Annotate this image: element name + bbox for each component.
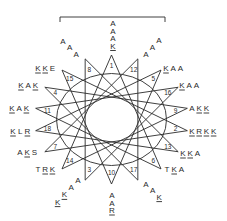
residue-label-pos-4: KAK: [18, 81, 39, 90]
residue-label-pos-11: KAK: [9, 104, 30, 113]
residue-label-pos-17: AAK: [143, 180, 162, 202]
residue-label-pos-9: AKK: [189, 104, 209, 113]
residue-letter: K: [180, 149, 186, 158]
residue-letter: R: [196, 127, 202, 136]
residue-letter: A: [187, 81, 193, 90]
residue-letter: A: [26, 81, 32, 90]
residue-letter: K: [163, 64, 169, 73]
position-number: 12: [130, 66, 138, 73]
residue-label-pos-10: AAR: [109, 191, 115, 215]
residue-letter: A: [194, 81, 200, 90]
residue-letter: K: [197, 104, 203, 113]
residue-letter: K: [25, 148, 31, 157]
residue-label-pos-5: KAA: [163, 64, 184, 73]
position-number: 14: [66, 157, 74, 164]
residue-labels: AAAKAAAKAAKAAAKKKRKKKKATKAAAKAARAAKKTRKA…: [9, 19, 217, 215]
residue-letter: A: [178, 64, 184, 73]
position-number: 8: [87, 66, 91, 73]
residue-label-pos-3: AAKK: [55, 176, 82, 207]
residue-letter: A: [171, 64, 177, 73]
residue-letter: A: [179, 165, 185, 174]
residue-letter: A: [150, 186, 156, 195]
residue-letter: K: [189, 127, 195, 136]
residue-letter: A: [60, 37, 66, 46]
position-number: 18: [44, 125, 52, 132]
residue-letter: K: [55, 198, 61, 207]
helical-wheel-diagram: 112516921361710314718114158 AAAKAAAKAAKA…: [0, 0, 227, 221]
residue-letter: K: [24, 104, 30, 113]
position-number: 9: [174, 107, 178, 114]
residue-letter: S: [32, 148, 37, 157]
residue-letter: A: [74, 50, 80, 59]
residue-letter: T: [36, 165, 41, 174]
residue-label-pos-2: KRKK: [189, 127, 217, 136]
residue-letter: R: [25, 127, 31, 136]
residue-letter: R: [42, 165, 48, 174]
residue-label-pos-13: KKA: [180, 149, 201, 158]
residue-letter: K: [172, 165, 178, 174]
residue-letter: K: [62, 190, 68, 199]
residue-letter: A: [17, 148, 23, 157]
position-number: 15: [66, 75, 74, 82]
position-number: 1: [110, 62, 114, 69]
position-number: 4: [53, 89, 57, 96]
residue-letter: A: [143, 50, 149, 59]
residue-label-pos-18: KLR: [10, 127, 30, 136]
position-numbers: 112516921361710314718114158: [44, 62, 178, 176]
residue-letter: K: [204, 127, 210, 136]
residue-letter: K: [179, 81, 185, 90]
position-number: 3: [87, 166, 91, 173]
residue-letter: E: [50, 64, 55, 73]
residue-letter: K: [211, 127, 217, 136]
position-number: 10: [108, 169, 116, 176]
residue-label-pos-12: AAA: [143, 36, 162, 59]
residue-letter: A: [67, 43, 73, 52]
residue-letter: A: [189, 104, 195, 113]
position-number: 2: [174, 125, 178, 132]
residue-label-pos-6: TKA: [165, 165, 185, 174]
residue-letter: T: [165, 165, 170, 174]
inner-ellipse: [57, 74, 167, 166]
residue-label-pos-14: TRK: [36, 165, 56, 174]
residue-letter: K: [18, 81, 24, 90]
residue-label-pos-15: KKE: [35, 64, 55, 73]
residue-letter: K: [157, 193, 163, 202]
residue-letter: K: [9, 104, 15, 113]
residue-letter: L: [18, 127, 23, 136]
residue-letter: A: [75, 176, 81, 185]
residue-letter: A: [156, 36, 162, 45]
residue-letter: K: [33, 81, 39, 90]
residue-letter: K: [10, 127, 16, 136]
residue-letter: A: [69, 183, 75, 192]
residue-letter: A: [143, 180, 149, 189]
residue-letter: A: [195, 149, 201, 158]
residue-label-pos-16: KAA: [179, 81, 200, 90]
position-number: 5: [151, 75, 155, 82]
residue-label-pos-1: AAAK: [110, 19, 116, 51]
residue-letter: A: [150, 43, 156, 52]
position-number: 6: [151, 157, 155, 164]
residue-label-pos-7: AKS: [17, 148, 37, 157]
residue-letter: K: [43, 64, 49, 73]
residue-letter: K: [204, 104, 210, 113]
residue-letter: K: [110, 42, 116, 51]
position-number: 17: [130, 166, 138, 173]
position-number: 11: [44, 107, 51, 114]
residue-label-pos-8: AAA: [60, 37, 79, 59]
residue-letter: K: [188, 149, 194, 158]
residue-letter: R: [109, 206, 115, 215]
position-number: 16: [164, 89, 172, 96]
position-number: 7: [53, 143, 57, 150]
residue-letter: K: [50, 165, 56, 174]
residue-letter: K: [35, 64, 41, 73]
position-number: 13: [164, 143, 172, 150]
residue-letter: A: [17, 104, 23, 113]
